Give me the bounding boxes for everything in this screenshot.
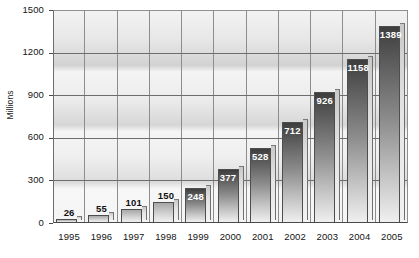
bar: 1158 xyxy=(347,55,373,223)
x-axis-tick-label: 1998 xyxy=(148,231,184,242)
bar-front-face xyxy=(121,209,142,223)
bar-value-label: 55 xyxy=(85,203,117,214)
x-axis-tick-label: 2000 xyxy=(213,231,249,242)
bar-front-face: 1389 xyxy=(379,26,400,223)
bar-front-face: 248 xyxy=(185,188,206,223)
y-axis-title: Millions xyxy=(5,73,15,137)
bar-value-label: 926 xyxy=(315,95,334,106)
x-axis-tick-label: 1995 xyxy=(51,231,87,242)
bar-value-label: 248 xyxy=(186,191,205,202)
bar-side-face xyxy=(174,199,179,220)
y-axis-tick-label: 0 xyxy=(0,217,44,228)
y-axis-tick-label: 900 xyxy=(0,89,44,100)
bar-front-face: 926 xyxy=(314,92,335,223)
bar: 101 xyxy=(121,205,147,223)
bar: 1389 xyxy=(379,22,405,223)
bar-value-label: 1158 xyxy=(348,62,367,73)
y-axis-tick-label: 300 xyxy=(0,174,44,185)
x-axis-tick-label: 1997 xyxy=(116,231,152,242)
y-axis-tick-label: 1200 xyxy=(0,46,44,57)
gridline xyxy=(53,53,408,54)
bar: 712 xyxy=(282,118,308,223)
bar-side-face xyxy=(206,185,211,220)
bar: 150 xyxy=(153,198,179,223)
background-column xyxy=(118,10,150,223)
bar-side-face xyxy=(400,23,405,220)
bar-front-face xyxy=(56,219,77,223)
bar-front-face: 712 xyxy=(282,122,303,223)
x-axis-tick-label: 2003 xyxy=(309,231,345,242)
bar-value-label: 26 xyxy=(53,207,85,218)
bar-side-face xyxy=(271,145,276,220)
bar: 926 xyxy=(314,88,340,223)
plot-area: 265510115024837752871292611581389 xyxy=(53,10,408,223)
background-column xyxy=(85,10,117,223)
x-axis-tick-label: 2004 xyxy=(342,231,378,242)
bar-side-face xyxy=(335,89,340,220)
bar-front-face xyxy=(88,215,109,223)
bar-value-label: 377 xyxy=(219,172,238,183)
bar-front-face xyxy=(153,202,174,223)
bar-value-label: 712 xyxy=(283,125,302,136)
x-axis-tick-label: 2005 xyxy=(374,231,410,242)
bar-front-face: 1158 xyxy=(347,59,368,223)
bar: 248 xyxy=(185,184,211,223)
bar-front-face: 528 xyxy=(250,148,271,223)
x-axis-tick-label: 2002 xyxy=(277,231,313,242)
y-axis-tick-label: 1500 xyxy=(0,4,44,15)
x-axis-tick-label: 1996 xyxy=(83,231,119,242)
bar-front-face: 377 xyxy=(218,169,239,223)
x-axis-tick-label: 1999 xyxy=(180,231,216,242)
background-column xyxy=(53,10,85,223)
bar-side-face xyxy=(142,206,147,220)
bar: 528 xyxy=(250,144,276,223)
bar: 26 xyxy=(56,215,82,223)
bar-side-face xyxy=(303,119,308,220)
x-axis-tick-label: 2001 xyxy=(245,231,281,242)
bar-value-label: 101 xyxy=(118,197,150,208)
bar-side-face xyxy=(239,166,244,220)
bar-chart: Millions 030060090012001500 265510115024… xyxy=(0,0,419,258)
bar-side-face xyxy=(368,56,373,220)
bar: 55 xyxy=(88,211,114,223)
y-axis-tick-mark xyxy=(49,223,53,224)
bar-value-label: 1389 xyxy=(380,29,399,40)
bar-value-label: 150 xyxy=(150,190,182,201)
bar: 377 xyxy=(218,165,244,223)
y-axis-tick-label: 600 xyxy=(0,131,44,142)
bar-value-label: 528 xyxy=(251,151,270,162)
